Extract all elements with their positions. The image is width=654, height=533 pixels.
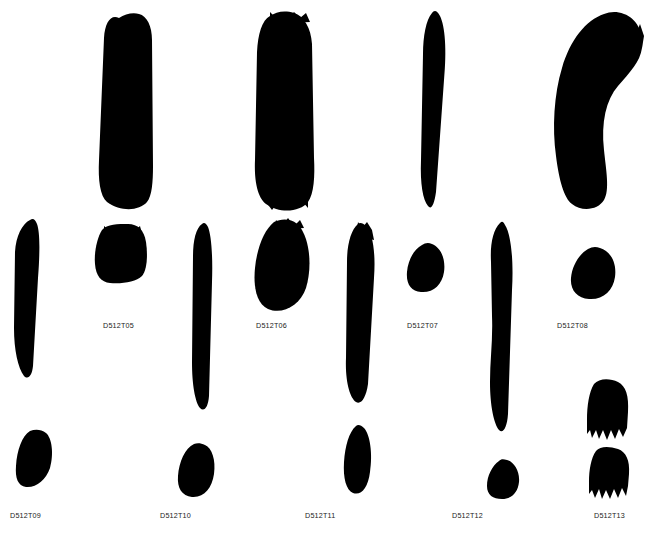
stroke-hook	[340, 424, 374, 496]
stroke-long-thin-vertical	[190, 222, 216, 412]
specimen-label-d512t06: D512T06	[256, 322, 287, 329]
specimen-label-d512t13: D512T13	[594, 512, 625, 519]
stroke-rounded-chunk	[404, 242, 446, 294]
stroke-bristled-block-upper	[584, 378, 632, 444]
brush-stroke-specimen-plate: D512T05 D512T06 D512T07 D512T08 D512T09 …	[0, 0, 654, 533]
stroke-angular-chip	[484, 458, 520, 500]
specimen-label-d512t08: D512T08	[557, 322, 588, 329]
stroke-bristled-block-lower	[586, 446, 632, 502]
stroke-short-block	[92, 222, 150, 286]
stroke-oval-blob	[252, 218, 312, 314]
specimen-label-d512t09: D512T09	[10, 512, 41, 519]
specimen-label-d512t11: D512T11	[305, 512, 335, 519]
stroke-curved-s-sweep	[548, 10, 646, 212]
specimen-label-d512t05: D512T05	[103, 322, 134, 329]
stroke-broad-ragged-slab	[250, 10, 316, 210]
stroke-wedge	[14, 428, 54, 490]
stroke-tapered-leaf	[12, 218, 44, 378]
stroke-small-oval	[176, 442, 216, 498]
stroke-wavy-long-vertical	[484, 220, 518, 436]
stroke-pointed-tapered-vertical	[418, 10, 450, 210]
specimen-label-d512t07: D512T07	[407, 322, 438, 329]
stroke-curved-ribbon	[342, 222, 378, 406]
stroke-thick-vertical-slab	[95, 10, 155, 208]
specimen-label-d512t12: D512T12	[452, 512, 483, 519]
specimen-label-d512t10: D512T10	[160, 512, 191, 519]
stroke-round-blob	[568, 246, 618, 300]
